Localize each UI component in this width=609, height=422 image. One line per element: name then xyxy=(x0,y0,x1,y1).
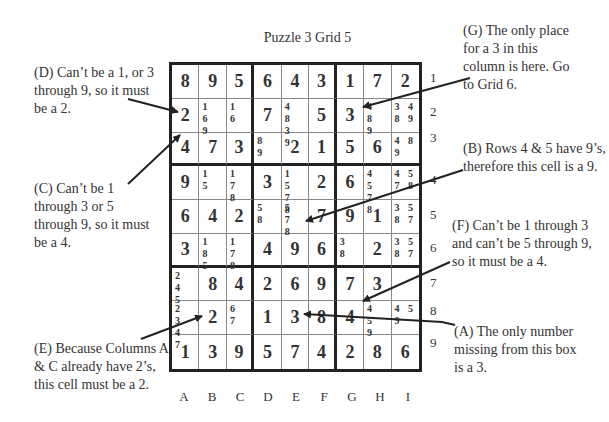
cell-A8: 2 3 4 7 xyxy=(172,301,199,335)
note-f: (F) Can’t be 1 through 3 and can’t be 5 … xyxy=(452,217,602,271)
cell-I7 xyxy=(392,268,419,302)
cell-E6: 9 xyxy=(282,234,309,268)
cell-D6: 4 xyxy=(254,234,281,268)
cell-B9: 3 xyxy=(199,335,226,369)
cell-value: 9 xyxy=(290,239,299,260)
cell-F1: 3 xyxy=(309,65,336,99)
cell-value: 4 xyxy=(263,239,272,260)
cell-A7: 2 4 5 xyxy=(172,268,199,302)
cell-C3: 3 xyxy=(227,133,254,167)
cell-H5: 1 xyxy=(364,200,391,234)
cell-value: 2 xyxy=(317,172,326,193)
cell-value: 4 xyxy=(181,137,190,158)
note-a: (A) The only number missing from this bo… xyxy=(454,323,579,377)
cell-value: 3 xyxy=(317,71,326,92)
cell-value: 5 xyxy=(235,71,244,92)
cell-value: 6 xyxy=(317,239,326,260)
cell-D8: 1 xyxy=(254,301,281,335)
cell-value: 9 xyxy=(317,274,326,295)
cell-value: 6 xyxy=(373,137,382,158)
cell-value: 4 xyxy=(345,307,354,328)
cell-D2: 7 xyxy=(254,99,281,133)
cell-value: 1 xyxy=(181,342,190,363)
cell-E2: 4 8 3 9 xyxy=(282,99,309,133)
cell-value: 3 xyxy=(181,239,190,260)
cell-F4: 2 xyxy=(309,166,336,200)
cell-D7: 2 xyxy=(254,268,281,302)
cell-F5: 7 xyxy=(309,200,336,234)
cell-candidates: 4 5 9 xyxy=(367,303,388,339)
cell-D5: 5 8 xyxy=(254,200,281,234)
cell-value: 5 xyxy=(317,105,326,126)
cell-candidates: 1 8 5 xyxy=(202,236,223,272)
row-label: 9 xyxy=(430,335,437,351)
cell-C1: 5 xyxy=(227,65,254,99)
cell-value: 9 xyxy=(181,172,190,193)
cell-C9: 9 xyxy=(227,335,254,369)
cell-candidates: 1 6 xyxy=(230,101,249,125)
cell-value: 8 xyxy=(181,71,190,92)
cell-value: 2 xyxy=(290,137,299,158)
cell-value: 5 xyxy=(345,137,354,158)
cell-value: 2 xyxy=(181,105,190,126)
cell-value: 9 xyxy=(345,206,354,227)
cell-E1: 4 xyxy=(282,65,309,99)
cell-candidates: 6 7 xyxy=(230,303,249,327)
cell-value: 3 xyxy=(263,172,272,193)
note-c: (C) Can’t be 1 through 3 or 5 through 9,… xyxy=(34,180,159,252)
cell-value: 9 xyxy=(208,71,217,92)
cell-H8: 4 5 9 xyxy=(364,301,391,335)
cell-value: 4 xyxy=(208,206,217,227)
cell-C4: 1 7 8 xyxy=(227,166,254,200)
column-label: D xyxy=(254,389,282,405)
cell-F7: 9 xyxy=(309,268,336,302)
cell-C5: 2 xyxy=(227,200,254,234)
cell-value: 1 xyxy=(263,307,272,328)
sudoku-grid: 89564317221 6 91 674 8 3 9534 8 93 4 8 9… xyxy=(169,62,422,372)
cell-I1: 2 xyxy=(392,65,419,99)
row-label: 2 xyxy=(430,104,437,120)
cell-H9: 8 xyxy=(364,335,391,369)
cell-value: 2 xyxy=(235,206,244,227)
cell-H1: 7 xyxy=(364,65,391,99)
cell-I8: 4 5 9 xyxy=(392,301,419,335)
row-label: 4 xyxy=(430,172,437,188)
column-label: H xyxy=(366,389,394,405)
cell-H6: 2 xyxy=(364,234,391,268)
column-label: A xyxy=(170,389,198,405)
cell-C6: 1 7 8 xyxy=(227,234,254,268)
cell-value: 6 xyxy=(345,172,354,193)
cell-value: 6 xyxy=(263,71,272,92)
cell-value: 8 xyxy=(373,342,382,363)
cell-value: 2 xyxy=(345,342,354,363)
cell-value: 3 xyxy=(290,307,299,328)
cell-H3: 6 xyxy=(364,133,391,167)
cell-H2: 4 8 9 xyxy=(364,99,391,133)
cell-candidates: 4 5 9 xyxy=(395,303,417,327)
cell-D9: 5 xyxy=(254,335,281,369)
cell-candidates: 5 8 xyxy=(257,202,278,226)
row-label: 5 xyxy=(430,207,437,223)
cell-C7: 4 xyxy=(227,268,254,302)
cell-A1: 8 xyxy=(172,65,199,99)
cell-candidates: 1 5 xyxy=(202,168,223,192)
cell-F9: 4 xyxy=(309,335,336,369)
cell-value: 7 xyxy=(345,274,354,295)
cell-E4: 1 5 7 8 xyxy=(282,166,309,200)
cell-candidates: 1 6 9 xyxy=(202,101,223,137)
cell-G3: 5 xyxy=(337,133,364,167)
cell-B6: 1 8 5 xyxy=(199,234,226,268)
cell-candidates: 2 4 5 xyxy=(175,270,196,306)
cell-I9: 6 xyxy=(392,335,419,369)
cell-value: 7 xyxy=(263,105,272,126)
cell-candidates: 3 5 8 7 xyxy=(395,202,417,226)
cell-value: 2 xyxy=(263,274,272,295)
cell-A6: 3 xyxy=(172,234,199,268)
cell-A4: 9 xyxy=(172,166,199,200)
row-label: 1 xyxy=(430,70,437,86)
cell-A3: 4 xyxy=(172,133,199,167)
column-label: E xyxy=(282,389,310,405)
cell-C8: 6 7 xyxy=(227,301,254,335)
cell-value: 2 xyxy=(373,239,382,260)
cell-value: 1 xyxy=(345,71,354,92)
